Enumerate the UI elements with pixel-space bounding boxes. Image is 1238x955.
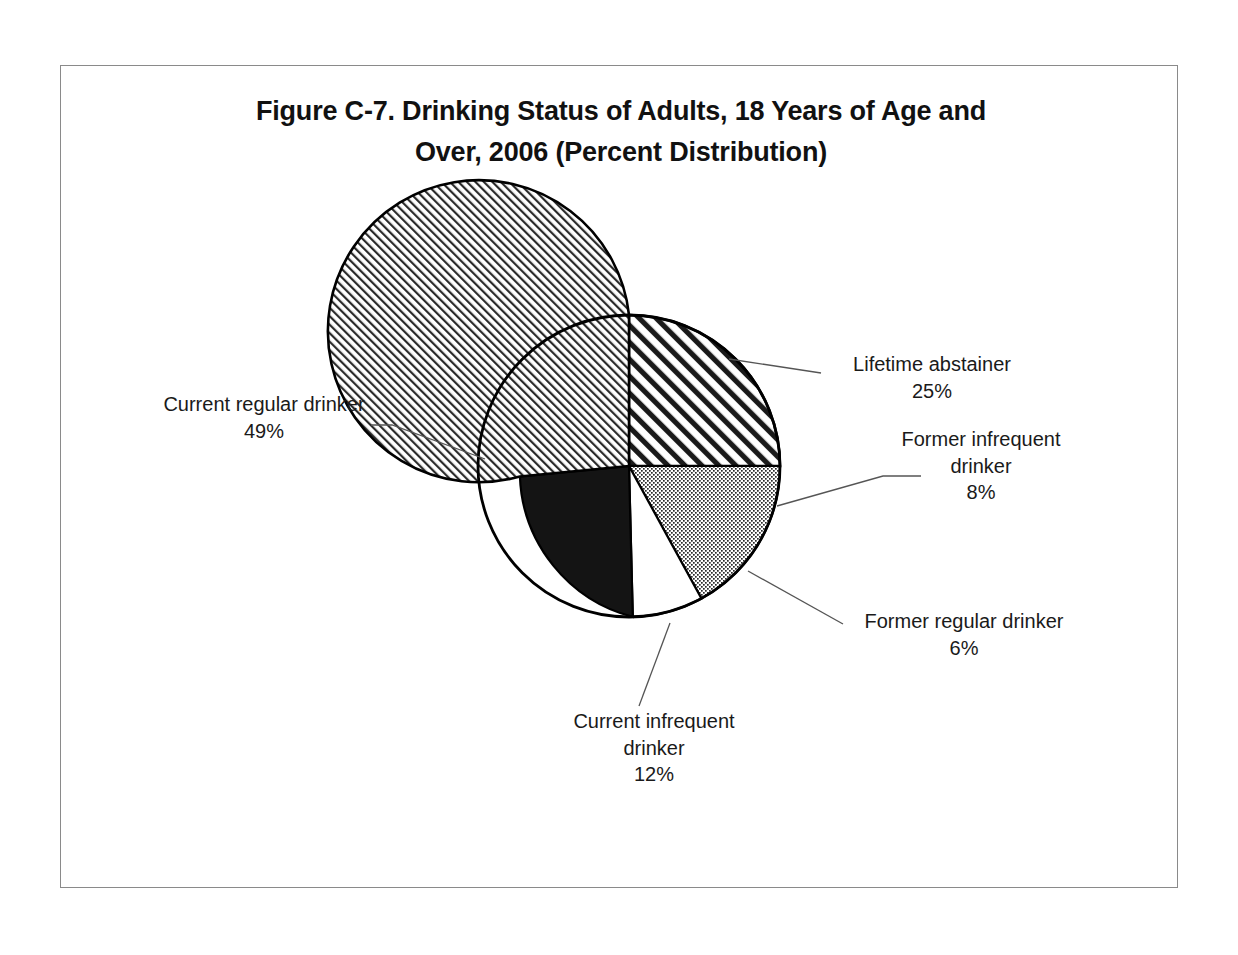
leader-line-former-regular-drinker [748,571,843,624]
pie-slice-current-infrequent-drinker[interactable] [520,466,633,617]
pie-label-former-regular-drinker-text: Former regular drinker [839,608,1089,635]
pie-chart: Lifetime abstainer 25% Former infrequent… [61,66,1179,889]
pie-label-lifetime-abstainer-value: 25% [817,378,1047,405]
pie-label-former-infrequent-drinker-value: 8% [861,479,1101,506]
pie-label-lifetime-abstainer-text: Lifetime abstainer [817,351,1047,378]
pie-label-former-regular-drinker-value: 6% [839,635,1089,662]
pie-label-current-infrequent-drinker-text-2: drinker [529,735,779,762]
pie-label-current-infrequent-drinker: Current infrequent drinker 12% [529,708,779,788]
pie-label-former-infrequent-drinker: Former infrequent drinker 8% [861,426,1101,506]
figure-frame: Figure C-7. Drinking Status of Adults, 1… [60,65,1178,888]
pie-label-current-regular-drinker-text: Current regular drinker [139,391,389,418]
pie-label-current-infrequent-drinker-text-1: Current infrequent [529,708,779,735]
pie-label-former-regular-drinker: Former regular drinker 6% [839,608,1089,661]
leader-line-current-infrequent-drinker [639,623,670,706]
pie-label-current-infrequent-drinker-value: 12% [529,761,779,788]
pie-label-lifetime-abstainer: Lifetime abstainer 25% [817,351,1047,404]
pie-label-current-regular-drinker: Current regular drinker 49% [139,391,389,444]
pie-label-former-infrequent-drinker-text-1: Former infrequent [861,426,1101,453]
pie-label-current-regular-drinker-value: 49% [139,418,389,445]
pie-label-former-infrequent-drinker-text-2: drinker [861,453,1101,480]
pie-slice-lifetime-abstainer[interactable] [629,315,780,466]
